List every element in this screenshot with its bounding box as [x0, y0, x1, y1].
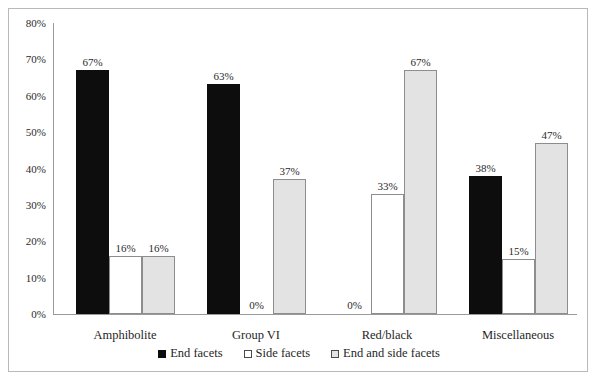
bar-slot-side: 16% [109, 23, 142, 314]
bar-slot-side: 0% [240, 23, 273, 314]
bar-value-label: 38% [475, 163, 495, 174]
bar-slot-end: 38% [469, 23, 502, 314]
bar-amphibolite-end-facets[interactable]: 67% [76, 70, 109, 314]
bar-red-black-end-and-side-facets[interactable]: 67% [404, 70, 437, 314]
y-tick-label-30: 30% [26, 200, 46, 211]
bar-group-amphibolite: 67% 16% 16% [67, 23, 184, 314]
chart-frame: 80% 70% 60% 50% 40% 30% 20% 10% 0% 67% 1… [8, 8, 588, 372]
bar-slot-endside: 67% [404, 23, 437, 314]
bar-value-label: 0% [347, 300, 362, 311]
legend-label: End and side facets [343, 347, 440, 360]
legend-swatch-icon [158, 350, 166, 358]
bar-slot-endside: 16% [142, 23, 175, 314]
bar-slot-end: 67% [76, 23, 109, 314]
chart-legend: End facets Side facets End and side face… [9, 347, 589, 360]
bar-slot-side: 33% [371, 23, 404, 314]
legend-item-side-facets[interactable]: Side facets [244, 347, 311, 360]
bar-value-label: 67% [82, 57, 102, 68]
x-axis-line [53, 314, 577, 315]
bar-value-label: 16% [148, 243, 168, 254]
bar-miscellaneous-end-facets[interactable]: 38% [469, 176, 502, 315]
legend-swatch-icon [244, 350, 252, 358]
bar-value-label: 47% [541, 130, 561, 141]
y-tick-label-80: 80% [26, 18, 46, 29]
bar-value-label: 63% [213, 71, 233, 82]
y-tick-label-40: 40% [26, 163, 46, 174]
bar-group-red-black: 0% 33% 67% [329, 23, 446, 314]
bar-value-label: 15% [508, 246, 528, 257]
bar-value-label: 0% [249, 300, 264, 311]
legend-swatch-icon [331, 350, 339, 358]
y-tick-label-70: 70% [26, 54, 46, 65]
bar-group-vi-end-facets[interactable]: 63% [207, 84, 240, 314]
bar-group-group-vi: 63% 0% 37% [198, 23, 315, 314]
bar-slot-end: 0% [338, 23, 371, 314]
bar-slot-endside: 37% [273, 23, 306, 314]
bar-amphibolite-side-facets[interactable]: 16% [109, 256, 142, 314]
legend-item-end-facets[interactable]: End facets [158, 347, 222, 360]
bar-miscellaneous-side-facets[interactable]: 15% [502, 259, 535, 314]
category-label-amphibolite: Amphibolite [93, 329, 156, 342]
legend-item-end-and-side-facets[interactable]: End and side facets [331, 347, 440, 360]
y-tick-label-10: 10% [26, 272, 46, 283]
y-axis-line [53, 23, 54, 315]
bar-slot-end: 63% [207, 23, 240, 314]
legend-label: Side facets [256, 347, 311, 360]
bar-group-miscellaneous: 38% 15% 47% [460, 23, 577, 314]
y-tick-label-20: 20% [26, 236, 46, 247]
category-label-red-black: Red/black [362, 329, 413, 342]
bar-value-label: 37% [279, 166, 299, 177]
plot-area: 80% 70% 60% 50% 40% 30% 20% 10% 0% 67% 1… [53, 23, 577, 315]
bar-value-label: 33% [377, 181, 397, 192]
bar-value-label: 67% [410, 57, 430, 68]
bar-miscellaneous-end-and-side-facets[interactable]: 47% [535, 143, 568, 314]
bar-value-label: 16% [115, 243, 135, 254]
legend-label: End facets [170, 347, 222, 360]
category-label-group-vi: Group VI [232, 329, 280, 342]
bar-slot-endside: 47% [535, 23, 568, 314]
y-tick-label-50: 50% [26, 127, 46, 138]
y-tick-label-0: 0% [31, 309, 46, 320]
y-tick-label-60: 60% [26, 90, 46, 101]
bar-group-vi-end-and-side-facets[interactable]: 37% [273, 179, 306, 314]
category-label-miscellaneous: Miscellaneous [482, 329, 554, 342]
bar-slot-side: 15% [502, 23, 535, 314]
bar-red-black-side-facets[interactable]: 33% [371, 194, 404, 314]
bar-amphibolite-end-and-side-facets[interactable]: 16% [142, 256, 175, 314]
